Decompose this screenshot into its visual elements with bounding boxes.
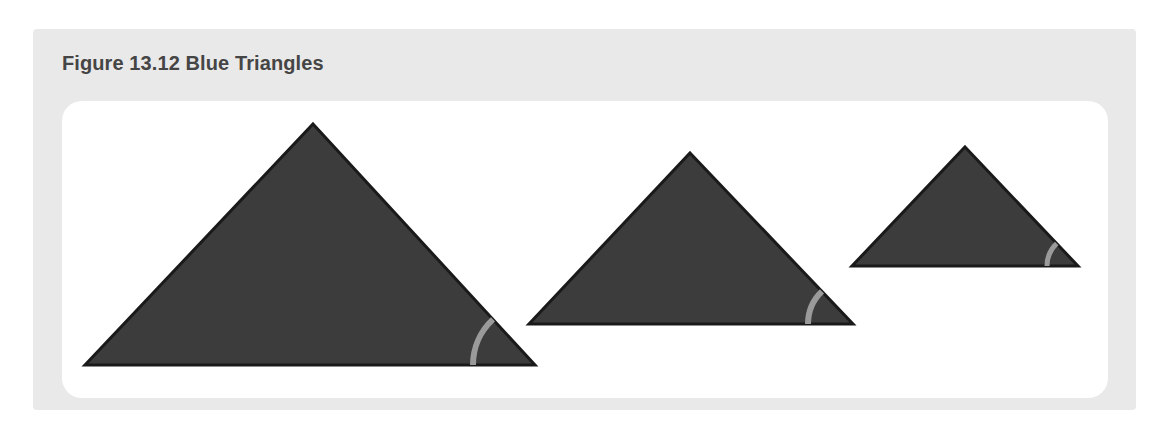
figure-canvas-card bbox=[62, 101, 1108, 398]
figure-root: Figure 13.12 Blue Triangles bbox=[0, 0, 1168, 433]
medium-triangle-shape bbox=[529, 153, 853, 324]
small-triangle-shape bbox=[852, 147, 1078, 266]
large-triangle bbox=[85, 124, 535, 365]
triangles-diagram bbox=[62, 101, 1108, 398]
large-triangle-shape bbox=[85, 124, 535, 365]
medium-triangle bbox=[529, 153, 853, 324]
figure-panel: Figure 13.12 Blue Triangles bbox=[33, 29, 1136, 410]
small-triangle bbox=[852, 147, 1078, 266]
figure-caption: Figure 13.12 Blue Triangles bbox=[62, 53, 324, 73]
